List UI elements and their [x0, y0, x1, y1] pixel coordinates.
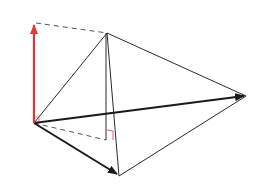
vector-to-bottom — [34, 123, 117, 174]
edge-origin-apex — [34, 33, 107, 123]
dashed-projection-top — [36, 23, 107, 33]
edge-apex-right — [107, 33, 246, 96]
right-angle-marker — [107, 130, 113, 140]
vector-diagram — [0, 0, 280, 191]
dashed-projection-base — [34, 123, 106, 140]
edge-apex-bottom — [107, 33, 119, 176]
edge-bottom-right — [119, 96, 246, 176]
vector-to-right — [34, 96, 244, 123]
